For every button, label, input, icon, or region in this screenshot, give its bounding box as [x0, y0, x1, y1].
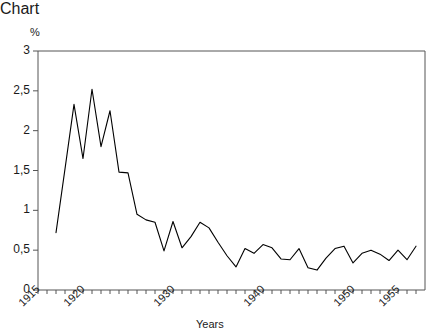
y-axis-tick-label: 0,5 [0, 242, 30, 256]
axis-group [38, 51, 425, 290]
y-axis-tick-label: 2,5 [0, 83, 30, 97]
x-axis-title: Years [196, 318, 224, 330]
y-axis-tick-label: 1,5 [0, 163, 30, 177]
chart-container: % 00,511,522,53 191519201930194019501955… [0, 18, 446, 332]
y-axis-tick-label: 1 [0, 202, 30, 216]
y-axis-tick-label: 2 [0, 123, 30, 137]
line-chart-plot [0, 18, 446, 332]
data-series-line [56, 89, 416, 270]
y-axis-tick-label: 3 [0, 43, 30, 57]
